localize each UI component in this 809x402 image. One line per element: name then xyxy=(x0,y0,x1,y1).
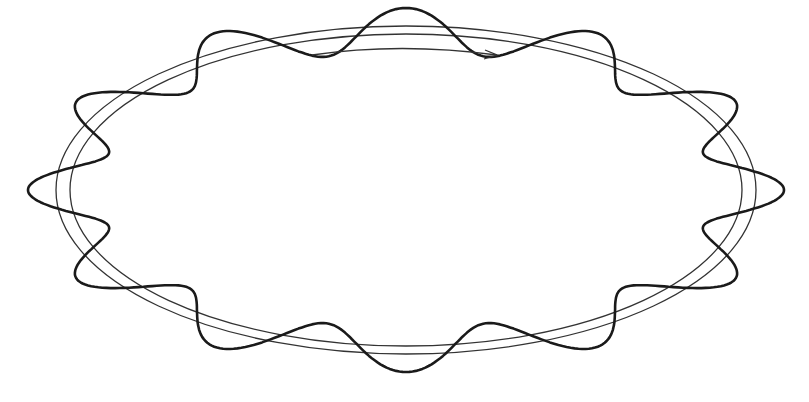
outer-ring-ellipse xyxy=(56,26,756,354)
wave-curve xyxy=(28,8,784,372)
wave-ring-diagram xyxy=(0,0,809,402)
inner-ring-ellipse xyxy=(70,34,742,346)
